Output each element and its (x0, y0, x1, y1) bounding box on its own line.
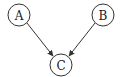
edge-b-to-c (69, 23, 95, 56)
node-a-label: A (14, 9, 24, 23)
node-c: C (50, 54, 72, 76)
node-b: B (92, 4, 114, 26)
dag-diagram: A B C (0, 0, 124, 77)
edge-a-to-c (27, 23, 53, 56)
node-a: A (8, 4, 30, 26)
node-c-label: C (56, 59, 65, 73)
node-b-label: B (99, 9, 108, 23)
